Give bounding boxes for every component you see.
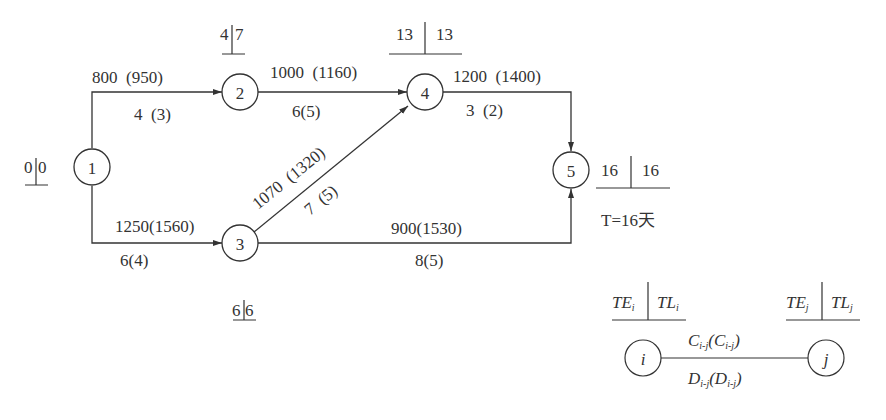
edge-4-5 (442, 92, 571, 151)
node-4-label: 4 (421, 84, 430, 103)
edge-3-5-duration: 8(5) (415, 251, 443, 270)
legend: TEi TLi TEj TLj i j Ci-j(Ci-j) Di-j(Di-j… (612, 282, 860, 389)
svg-text:TLi: TLi (657, 293, 679, 313)
node-4-times: 13 13 (389, 22, 462, 54)
svg-text:TEj: TEj (786, 293, 809, 313)
node-2-label: 2 (236, 84, 245, 103)
svg-text:TEi: TEi (612, 293, 635, 313)
edge-2-4-cost: 1000 (1160) (270, 63, 357, 82)
edge-4-5-duration: 3 (2) (466, 101, 503, 120)
node-2-times: 4 7 (220, 25, 245, 54)
total-time-label: T=16天 (601, 211, 655, 230)
node-1-label: 1 (88, 159, 97, 178)
node-1-times: 0 0 (24, 158, 48, 185)
edge-1-3-cost: 1250(1560) (115, 217, 194, 236)
node-5-times: 16 16 (596, 156, 670, 188)
edge-1-2-cost: 800 (950) (92, 68, 163, 87)
edge-2-4-duration: 6(5) (292, 102, 320, 121)
svg-text:TLj: TLj (831, 293, 853, 313)
edge-1-2-duration: 4 (3) (134, 105, 171, 124)
legend-duration-label: Di-j(Di-j) (687, 369, 742, 389)
node-3-times: 6 6 (232, 300, 256, 320)
edge-1-3-duration: 6(4) (120, 251, 148, 270)
node-5-label: 5 (567, 162, 576, 181)
edge-3-4 (254, 106, 408, 232)
svg-text:0: 0 (24, 158, 33, 177)
svg-text:j: j (822, 350, 829, 369)
svg-text:7: 7 (235, 25, 244, 44)
network-diagram: 1 2 3 4 5 800 (950) 4 (3) 1250(1560) 6(4… (0, 0, 886, 420)
svg-text:13: 13 (396, 25, 413, 44)
svg-text:16: 16 (642, 161, 659, 180)
svg-text:6: 6 (245, 301, 254, 320)
svg-text:i: i (641, 350, 646, 369)
node-3-label: 3 (236, 235, 245, 254)
legend-cost-label: Ci-j(Ci-j) (688, 331, 740, 351)
svg-text:6: 6 (232, 301, 241, 320)
svg-text:4: 4 (220, 25, 229, 44)
svg-text:0: 0 (38, 158, 47, 177)
edge-4-5-cost: 1200 (1400) (453, 67, 541, 86)
edge-3-4-duration: 7 (5) (301, 181, 342, 219)
svg-text:13: 13 (436, 25, 453, 44)
edge-3-5-cost: 900(1530) (391, 219, 462, 238)
svg-text:16: 16 (601, 161, 618, 180)
